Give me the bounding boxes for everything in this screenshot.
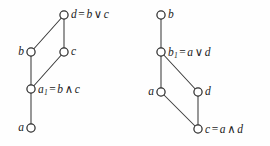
label-right-b1-rhs-right: d [205, 46, 211, 58]
label-right-c: c=a∧d [205, 124, 243, 136]
label-left-a1: a1=b∧c [38, 84, 80, 96]
label-right-b1-eq: = [178, 46, 188, 58]
hasse-diagram-figure: d=b∨c b c a1=b∧c a b b1=a∨d a d c=a∧d [0, 0, 270, 146]
label-right-b1-var: b [168, 46, 174, 58]
left-lattice-edges [31, 15, 64, 128]
label-right-b: b [168, 9, 174, 21]
label-right-d-text: d [205, 85, 211, 97]
right-lattice-edges [161, 15, 198, 129]
node-right-b [157, 11, 165, 19]
node-left-d [60, 11, 68, 19]
label-left-d: d=b∨c [71, 9, 109, 21]
node-left-b [27, 48, 35, 56]
node-left-a1 [27, 85, 35, 93]
edge-b-to-d [31, 15, 64, 52]
left-lattice-nodes [27, 11, 68, 132]
label-left-a: a [18, 122, 24, 134]
label-right-c-rhs-left: a [220, 123, 226, 135]
label-left-a1-sub: 1 [44, 88, 48, 97]
label-right-b-text: b [168, 8, 174, 20]
label-left-d-eq: = [77, 8, 87, 20]
label-left-a1-eq: = [48, 83, 58, 95]
label-left-d-var: d [71, 8, 77, 20]
or-operator-icon: ∨ [92, 8, 104, 20]
label-left-c-text: c [71, 45, 76, 57]
label-right-d: d [205, 86, 211, 98]
label-left-d-rhs-right: c [104, 8, 109, 20]
label-right-c-eq: = [210, 123, 220, 135]
label-left-c: c [71, 46, 76, 58]
edge-c-to-a [161, 92, 198, 129]
label-left-a1-rhs-right: c [75, 83, 80, 95]
label-right-b1-sub: 1 [174, 51, 178, 60]
and-operator-icon: ∧ [226, 123, 238, 135]
node-right-c [194, 125, 202, 133]
or-operator-icon: ∨ [193, 46, 205, 58]
label-left-b-text: b [18, 45, 24, 57]
node-right-d [194, 88, 202, 96]
label-left-a1-var: a [38, 83, 44, 95]
label-left-b: b [18, 46, 24, 58]
node-left-a [27, 124, 35, 132]
node-left-c [60, 48, 68, 56]
label-right-a: a [148, 86, 154, 98]
and-operator-icon: ∧ [63, 83, 75, 95]
label-left-a-text: a [18, 121, 24, 133]
node-right-a [157, 88, 165, 96]
node-right-b1 [157, 48, 165, 56]
label-right-c-rhs-right: d [237, 123, 243, 135]
label-right-b1: b1=a∨d [168, 47, 211, 59]
label-right-a-text: a [148, 85, 154, 97]
